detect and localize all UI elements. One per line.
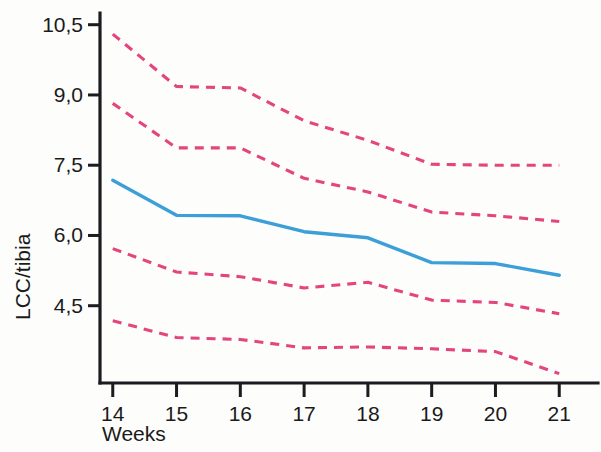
y-tick-label: 4,5	[54, 294, 83, 317]
y-tick-label: 10,5	[42, 13, 83, 36]
y-axis-group: 10,59,07,56,04,5 LCC/tibia	[11, 13, 100, 383]
x-tick-label: 19	[420, 402, 443, 425]
y-tick-label: 9,0	[54, 83, 83, 106]
y-axis-tick-labels: 10,59,07,56,04,5	[42, 13, 83, 317]
y-axis-ticks	[88, 25, 100, 306]
series-line	[113, 103, 559, 221]
y-axis-title: LCC/tibia	[11, 233, 34, 320]
x-tick-label: 20	[484, 402, 507, 425]
chart-canvas: 10,59,07,56,04,5 LCC/tibia 1415161718192…	[0, 0, 601, 452]
x-axis-tick-labels: 1415161718192021	[101, 402, 571, 425]
y-tick-label: 6,0	[54, 223, 83, 246]
x-tick-label: 15	[165, 402, 188, 425]
y-tick-label: 7,5	[54, 153, 83, 176]
series-line	[113, 249, 559, 314]
x-axis-title: Weeks	[102, 422, 166, 445]
series-line	[113, 321, 559, 374]
x-axis-group: 1415161718192021 Weeks	[100, 383, 598, 445]
chart-figure: 10,59,07,56,04,5 LCC/tibia 1415161718192…	[0, 0, 601, 452]
x-tick-label: 17	[292, 402, 315, 425]
x-tick-label: 21	[548, 402, 571, 425]
x-tick-label: 18	[356, 402, 379, 425]
x-axis-ticks	[113, 383, 559, 397]
series-line	[113, 180, 559, 275]
x-tick-label: 16	[229, 402, 252, 425]
series-line	[113, 34, 559, 165]
data-series-group	[113, 34, 559, 374]
